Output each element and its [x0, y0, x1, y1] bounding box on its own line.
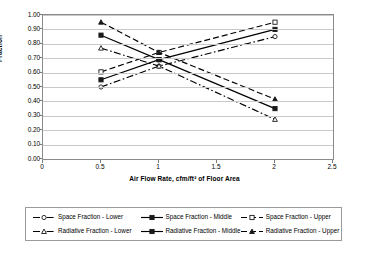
legend-item-radiative-fraction-lower[interactable]: Radiative Fraction - Lower [26, 227, 141, 236]
legend: Space Fraction - Lower Space Fraction - … [25, 207, 342, 241]
gridline [43, 29, 333, 30]
legend-swatch-icon [141, 227, 163, 236]
data-point-marker [99, 20, 104, 25]
y-axis-tick-label: 0.10 [0, 140, 40, 147]
y-axis-tick-mark [39, 57, 42, 58]
x-axis-tick-label: 0 [27, 163, 57, 171]
series-radiative-fraction-lower [99, 46, 278, 122]
chart-root: Fraction 0.000.100.200.300.400.500.600.7… [0, 0, 369, 254]
gridline [43, 87, 333, 88]
x-axis-tick-mark [158, 160, 159, 163]
data-point-marker [249, 229, 254, 234]
y-axis-tick-mark [39, 86, 42, 87]
y-axis-tick-label: 0.00 [0, 155, 40, 162]
x-axis-tick-label: 1 [143, 163, 173, 171]
data-point-marker [42, 215, 46, 219]
gridline [43, 15, 333, 16]
series-radiative-fraction-upper [99, 20, 278, 102]
gridline [43, 58, 333, 59]
data-point-marker [149, 229, 153, 233]
y-axis-tick-label: 0.40 [0, 97, 40, 104]
y-axis-tick-label: 0.80 [0, 39, 40, 46]
y-axis-tick-label: 0.30 [0, 111, 40, 118]
legend-label: Radiative Fraction - Upper [266, 227, 340, 235]
x-axis-tick-label: 0.5 [85, 163, 115, 171]
y-axis-tick-label: 0.70 [0, 54, 40, 61]
y-axis-tick-label: 0.50 [0, 83, 40, 90]
y-axis-tick-label: 0.20 [0, 126, 40, 133]
data-point-marker [273, 35, 277, 39]
x-axis-tick-label: 2.5 [317, 163, 347, 171]
plot-area [42, 14, 334, 160]
data-point-marker [99, 78, 103, 82]
x-axis-tick-mark [332, 160, 333, 163]
y-axis-tick-mark [39, 14, 42, 15]
legend-item-radiative-fraction-upper[interactable]: Radiative Fraction - Upper [241, 227, 341, 236]
legend-swatch-icon [241, 227, 263, 236]
x-axis-tick-mark [216, 160, 217, 163]
data-point-marker [99, 33, 103, 37]
legend-swatch-icon [33, 227, 55, 236]
gridline [43, 73, 333, 74]
x-axis-tick-mark [274, 160, 275, 163]
legend-label: Radiative Fraction - Lower [58, 227, 132, 235]
legend-label: Space Fraction - Lower [58, 213, 123, 221]
gridline [43, 44, 333, 45]
data-point-marker [149, 215, 153, 219]
y-axis-tick-label: 0.90 [0, 25, 40, 32]
y-axis-tick-mark [39, 129, 42, 130]
y-axis-tick-mark [39, 43, 42, 44]
data-point-marker [273, 107, 277, 111]
data-point-marker [273, 20, 277, 24]
legend-row: Radiative Fraction - Lower Radiative Fra… [26, 224, 341, 238]
legend-item-space-fraction-middle[interactable]: Space Fraction - Middle [141, 213, 241, 222]
gridline [43, 116, 333, 117]
legend-swatch-icon [241, 213, 263, 222]
y-axis-tick-mark [39, 144, 42, 145]
x-axis-title: Air Flow Rate, cfm/ft² of Floor Area [0, 175, 369, 182]
y-axis-tick-mark [39, 158, 42, 159]
gridline [43, 145, 333, 146]
data-point-marker [273, 117, 278, 122]
data-point-marker [250, 215, 254, 219]
data-point-marker [99, 46, 104, 50]
legend-label: Space Fraction - Upper [266, 213, 331, 221]
x-axis-tick-mark [42, 160, 43, 163]
legend-item-space-fraction-upper[interactable]: Space Fraction - Upper [241, 213, 341, 222]
x-axis-tick-label: 1.5 [201, 163, 231, 171]
gridline [43, 130, 333, 131]
series-space-fraction-upper [99, 20, 277, 74]
y-axis-tick-mark [39, 72, 42, 73]
legend-swatch-icon [33, 213, 55, 222]
legend-label: Space Fraction - Middle [166, 213, 233, 221]
legend-label: Radiative Fraction - Middle [166, 227, 241, 235]
x-axis-tick-label: 2 [259, 163, 289, 171]
y-axis-tick-label: 1.00 [0, 11, 40, 18]
legend-swatch-icon [141, 213, 163, 222]
series-space-fraction-lower [99, 35, 277, 90]
gridline [43, 101, 333, 102]
y-axis-tick-mark [39, 115, 42, 116]
data-point-marker [42, 229, 47, 234]
legend-item-space-fraction-lower[interactable]: Space Fraction - Lower [26, 213, 141, 222]
y-axis-tick-mark [39, 28, 42, 29]
legend-item-radiative-fraction-middle[interactable]: Radiative Fraction - Middle [141, 227, 241, 236]
y-axis-tick-label: 0.60 [0, 68, 40, 75]
legend-row: Space Fraction - Lower Space Fraction - … [26, 210, 341, 224]
x-axis-tick-mark [100, 160, 101, 163]
y-axis-tick-mark [39, 100, 42, 101]
